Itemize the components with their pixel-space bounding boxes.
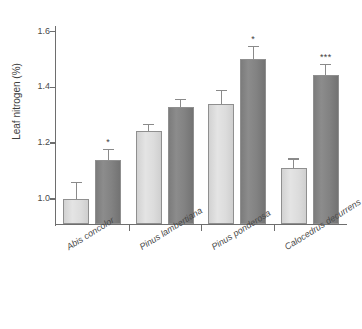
error-bar-cap-dark-4 <box>320 64 331 65</box>
bar-light-2 <box>136 131 162 224</box>
group-divider-tick <box>201 225 202 231</box>
bar-light-1 <box>63 199 89 224</box>
y-tick-label: 1.0 <box>24 194 50 203</box>
error-bar-cap-dark-3 <box>248 46 259 47</box>
error-bar-cap-dark-1 <box>103 149 114 150</box>
bar-dark-1 <box>95 160 121 224</box>
y-tick-label: 1.2 <box>24 138 50 147</box>
y-tick-label-wrap: 1.2 <box>0 138 50 148</box>
error-bar-cap-light-2 <box>143 124 154 125</box>
y-tick-label-wrap: 1.6 <box>0 27 50 37</box>
group-divider-tick <box>274 225 275 231</box>
error-bar-dark-2 <box>180 99 181 107</box>
bar-dark-3 <box>240 59 266 224</box>
bar-dark-4 <box>313 75 339 224</box>
error-bar-dark-3 <box>253 46 254 60</box>
error-bar-cap-light-3 <box>216 90 227 91</box>
error-bar-cap-dark-2 <box>175 99 186 100</box>
significance-marker-4: *** <box>306 53 346 62</box>
error-bar-light-3 <box>221 90 222 104</box>
error-bar-cap-light-1 <box>71 182 82 183</box>
y-tick-label-wrap: 1.4 <box>0 82 50 92</box>
bar-dark-2 <box>168 107 194 224</box>
y-axis-line <box>55 26 56 226</box>
y-tick-mark <box>50 198 55 199</box>
significance-marker-3: * <box>233 35 273 44</box>
y-tick-label-wrap: 1.0 <box>0 194 50 204</box>
y-tick-mark <box>50 142 55 143</box>
error-bar-light-4 <box>293 158 294 168</box>
y-tick-label: 1.6 <box>24 27 50 36</box>
error-bar-dark-1 <box>108 149 109 160</box>
group-divider-tick <box>129 225 130 231</box>
y-tick-label: 1.4 <box>24 82 50 91</box>
significance-marker-1: * <box>88 138 128 147</box>
error-bar-light-1 <box>76 182 77 199</box>
error-bar-dark-4 <box>325 64 326 75</box>
bar-light-3 <box>208 104 234 224</box>
y-tick-mark <box>50 31 55 32</box>
error-bar-cap-light-4 <box>288 158 299 159</box>
bar-light-4 <box>281 168 307 224</box>
y-axis-label: Leaf nitrogen (%) <box>11 32 22 172</box>
y-tick-mark <box>50 87 55 88</box>
